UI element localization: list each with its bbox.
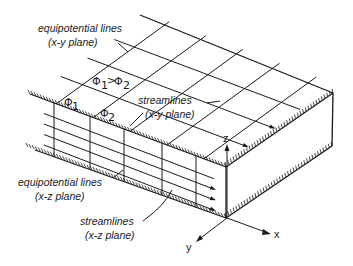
x-axis: [227, 218, 268, 233]
x-axis-label: x: [274, 228, 280, 240]
hatch-right-bottom: [252, 195, 253, 199]
back-right-vertical-edge: [332, 93, 333, 146]
hatch-right-top: [308, 105, 309, 109]
hatch-right-top: [292, 116, 293, 120]
hatch-right-bottom: [274, 180, 275, 184]
hatch-right-top: [257, 140, 258, 144]
label-streamlines-xy-line1: streamlines: [138, 94, 192, 106]
hatch-right-bottom: [228, 211, 229, 215]
hatch-right-bottom: [241, 202, 242, 206]
phi1-symbol: Φ: [92, 75, 101, 88]
hatch-right-top: [281, 124, 282, 128]
hatch-right-bottom: [249, 197, 250, 201]
hatch-right-top: [268, 133, 269, 137]
hatch-right-bottom: [258, 191, 259, 195]
hatch-right-top: [273, 129, 274, 133]
y-axis-label: y: [186, 241, 192, 253]
hatch-right-bottom: [255, 193, 256, 197]
hatch-bottom-front: [29, 144, 31, 148]
hatch-right-bottom: [288, 171, 289, 175]
hatch-right-bottom: [326, 146, 327, 150]
hatch-right-top: [303, 109, 304, 113]
hatch-right-bottom: [307, 158, 308, 162]
hatch-right-bottom: [315, 153, 316, 157]
hatch-right-top: [249, 146, 250, 150]
hatch-right-bottom: [236, 206, 237, 210]
hatch-right-top: [244, 149, 245, 153]
hatch-bottom-front: [26, 143, 28, 147]
hatch-right-top: [327, 93, 328, 97]
hatch-right-top: [311, 104, 312, 108]
hatch-right-top: [295, 115, 296, 119]
label-streamlines-xz-line1: streamlines: [80, 215, 134, 227]
x-axis-arrowhead: [262, 229, 271, 235]
z-axis-arrowhead: [225, 144, 230, 151]
hatch-right-top: [236, 155, 237, 159]
label-equipotential-xy-line1: equipotential lines: [38, 22, 123, 34]
label-equipotential-xz-line2: (x-z plane): [35, 190, 85, 202]
streamline-xy-arrow: [269, 125, 275, 129]
equipotential-line-xy: [57, 22, 169, 104]
hatch-right-top: [300, 111, 301, 115]
hatch-right-bottom: [320, 149, 321, 153]
hatch-right-bottom: [268, 184, 269, 188]
phi-relation: Φ 1 > Φ 2: [92, 74, 130, 92]
hatch-right-bottom: [309, 157, 310, 161]
hatch-right-bottom: [304, 160, 305, 164]
hatch-bottom-front: [32, 145, 34, 149]
hatch-right-bottom: [233, 208, 234, 212]
hatch-right-bottom: [282, 175, 283, 179]
hatch-right-bottom: [285, 173, 286, 177]
hatch-right-top: [287, 120, 288, 124]
z-axis-label: z: [223, 132, 229, 144]
hatch-right-bottom: [230, 209, 231, 213]
leader-streamlines-xy-bottom: [130, 113, 143, 126]
hatch-right-bottom: [266, 186, 267, 190]
hatch-right-top: [316, 100, 317, 104]
hatch-right-top: [276, 127, 277, 131]
hatch-right-top: [228, 160, 229, 164]
hatch-right-bottom: [277, 178, 278, 182]
hatch-right-top: [319, 98, 320, 102]
hatch-right-top: [233, 157, 234, 161]
hatch-right-top: [270, 131, 271, 135]
hatch-right-bottom: [328, 144, 329, 148]
phi2-symbol: Φ: [114, 75, 123, 88]
hatch-right-bottom: [271, 182, 272, 186]
hatch-right-top: [252, 144, 253, 148]
coordinate-axes: z x y: [186, 132, 280, 253]
hatch-right-top: [305, 107, 306, 111]
phi1-marker: Φ 1: [64, 96, 79, 113]
hatch-right-bottom: [244, 200, 245, 204]
hatch-right-top: [241, 151, 242, 155]
hatch-right-bottom: [263, 188, 264, 192]
leader-streamlines-xy-top: [207, 101, 220, 103]
hatch-right-bottom: [279, 177, 280, 181]
label-equipotential-xy-line2: (x-y plane): [48, 36, 98, 48]
flow-net-diagram: equipotential lines (x-y plane) streamli…: [0, 0, 353, 266]
hatch-right-bottom: [312, 155, 313, 159]
hatch-right-top: [289, 118, 290, 122]
hatch-right-bottom: [323, 147, 324, 151]
hatch-right-top: [238, 153, 239, 157]
hatch-right-bottom: [293, 167, 294, 171]
phi2-marker-subscript: 2: [108, 111, 115, 124]
equipotential-line-xy: [204, 77, 316, 159]
y-axis-arrowhead: [196, 235, 203, 242]
hatch-right-top: [260, 138, 261, 142]
hatch-right-bottom: [290, 169, 291, 173]
leader-streamlines-xz: [143, 190, 172, 221]
hatch-right-bottom: [301, 162, 302, 166]
hatch-right-top: [254, 142, 255, 146]
hatch-right-top: [321, 96, 322, 100]
hatch-right-top: [324, 94, 325, 98]
hatch-right-bottom: [247, 198, 248, 202]
streamline-xz-arrow: [210, 207, 216, 211]
phi1-marker-subscript: 1: [72, 100, 79, 113]
streamline-xz-arrow: [210, 186, 216, 190]
label-equipotential-xz-line1: equipotential lines: [18, 176, 103, 188]
hatch-right-bottom: [317, 151, 318, 155]
hatch-right-top: [262, 136, 263, 140]
hatch-top-front: [28, 90, 30, 94]
streamline-xy-arrow: [242, 143, 248, 147]
